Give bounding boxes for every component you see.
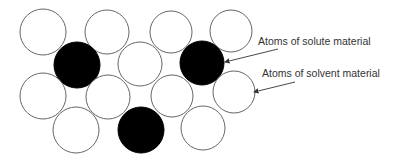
solute-label: Atoms of solute material bbox=[258, 35, 371, 47]
solvent-atom bbox=[86, 75, 130, 119]
solvent-label: Atoms of solvent material bbox=[262, 67, 380, 79]
solvent-atom bbox=[118, 42, 162, 86]
solvent-atom bbox=[20, 9, 66, 55]
solvent-atom bbox=[181, 106, 225, 150]
solvent-arrow bbox=[254, 82, 295, 92]
solvent-atom bbox=[53, 107, 99, 153]
solid-solution-diagram: Atoms of solute material Atoms of solven… bbox=[0, 0, 395, 164]
solute-atom bbox=[118, 107, 164, 153]
solvent-atom bbox=[213, 71, 255, 113]
solvent-atom bbox=[151, 75, 193, 117]
solvent-atom bbox=[150, 11, 192, 53]
atoms-lattice bbox=[0, 0, 395, 164]
solvent-atom bbox=[20, 73, 66, 119]
